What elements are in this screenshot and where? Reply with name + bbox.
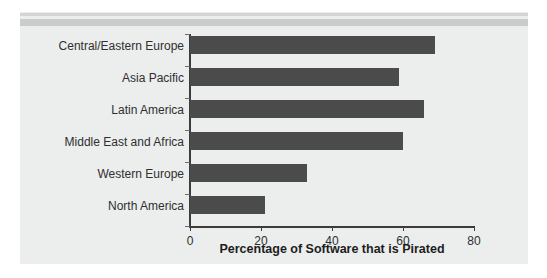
bar-middle-east-and-africa — [190, 132, 403, 150]
category-label-middle-east-and-africa: Middle East and Africa — [65, 135, 184, 149]
x-axis-tick — [403, 226, 404, 231]
x-axis-title: Percentage of Software that is Pirated — [190, 242, 474, 256]
category-label-north-america: North America — [108, 199, 184, 213]
y-axis-tick — [185, 34, 190, 35]
x-axis-tick — [332, 226, 333, 231]
decorative-band-secondary — [20, 19, 528, 26]
decorative-band-top — [20, 13, 528, 16]
category-axis-labels: Central/Eastern Europe Asia Pacific Lati… — [0, 34, 184, 226]
x-axis-tick — [190, 226, 191, 231]
y-axis-tick — [185, 130, 190, 131]
bar-central-eastern-europe — [190, 36, 435, 54]
y-axis-tick — [185, 98, 190, 99]
y-axis-tick — [185, 162, 190, 163]
bar-latin-america — [190, 100, 424, 118]
bar-asia-pacific — [190, 68, 399, 86]
category-label-asia-pacific: Asia Pacific — [122, 71, 184, 85]
x-axis-tick — [261, 226, 262, 231]
category-label-western-europe: Western Europe — [98, 167, 185, 181]
bar-western-europe — [190, 164, 307, 182]
bar-north-america — [190, 196, 265, 214]
plot-area: 0 20 40 60 80 — [190, 34, 474, 226]
category-label-latin-america: Latin America — [111, 103, 184, 117]
category-label-central-eastern-europe: Central/Eastern Europe — [59, 39, 184, 53]
x-axis-tick — [474, 226, 475, 231]
chart-figure: Central/Eastern Europe Asia Pacific Lati… — [0, 0, 547, 278]
y-axis-tick — [185, 66, 190, 67]
y-axis-tick — [185, 194, 190, 195]
